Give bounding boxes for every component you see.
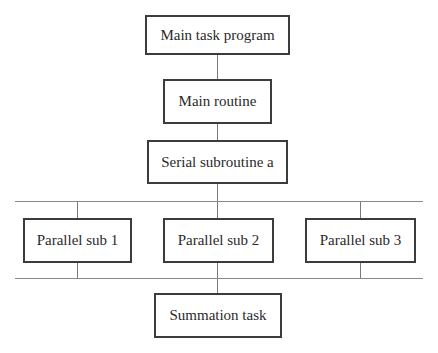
node-label: Parallel sub 3 [320,232,402,249]
connector-join-to-summation [217,279,218,294]
connector-par3-to-join [360,262,361,278]
node-parallel-sub-2: Parallel sub 2 [163,218,274,263]
join-bus-line [15,278,423,279]
node-main-task-program: Main task program [145,15,290,55]
node-parallel-sub-1: Parallel sub 1 [23,218,132,263]
node-label: Main task program [160,27,274,44]
connector-main-routine-to-serial [217,123,218,141]
node-label: Summation task [169,307,266,324]
node-label: Parallel sub 2 [178,232,260,249]
node-summation-task: Summation task [154,293,282,338]
node-main-routine: Main routine [163,79,272,124]
connector-main-task-to-main-routine [217,54,218,80]
node-label: Serial subroutine a [161,154,273,171]
node-label: Parallel sub 1 [37,232,119,249]
connector-par2-to-join [217,262,218,278]
node-serial-subroutine-a: Serial subroutine a [147,140,288,184]
connector-fork-to-par1 [77,202,78,219]
connector-fork-to-par2 [217,202,218,219]
node-label: Main routine [179,93,257,110]
node-parallel-sub-3: Parallel sub 3 [305,218,416,263]
connector-serial-to-fork-bus [217,183,218,202]
connector-fork-to-par3 [360,202,361,219]
connector-par1-to-join [77,262,78,278]
